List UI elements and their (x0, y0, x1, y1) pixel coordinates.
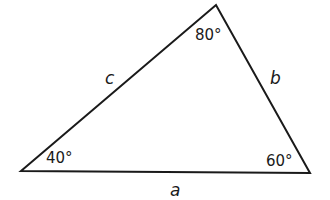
side-c-label: c (105, 68, 115, 88)
angle-left-label: 40° (46, 149, 73, 167)
side-b-label: b (270, 68, 281, 88)
angle-top-label: 80° (195, 26, 222, 44)
triangle-shape (21, 5, 310, 173)
side-a-label: a (170, 180, 180, 200)
angle-right-label: 60° (266, 152, 293, 170)
triangle-diagram: 80° 40° 60° c b a (0, 0, 330, 200)
